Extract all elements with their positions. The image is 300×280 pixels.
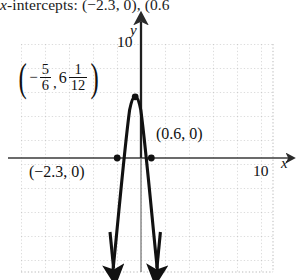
vertex-close-paren: ) bbox=[91, 62, 99, 93]
vertex-x-fraction: 5 6 bbox=[40, 62, 51, 93]
vertex-x-sign: − bbox=[29, 70, 37, 85]
parabola-figure: x-intercepts: (−2.3, 0), (0.6 bbox=[0, 0, 300, 280]
vertex-y-denominator: 12 bbox=[69, 77, 88, 93]
vertex-point bbox=[132, 93, 139, 100]
left-intercept-label: (−2.3, 0) bbox=[29, 163, 85, 181]
x-tick-label-10: 10 bbox=[253, 162, 269, 180]
vertex-x-denominator: 6 bbox=[40, 77, 51, 93]
x-axis-label: x bbox=[281, 155, 288, 172]
vertex-separator: , bbox=[53, 76, 57, 93]
left-intercept-point bbox=[114, 155, 121, 162]
right-intercept-point bbox=[148, 155, 155, 162]
vertex-x-numerator: 5 bbox=[40, 62, 51, 77]
vertex-annotation: ( − 5 6 , 6 1 12 ) bbox=[16, 62, 102, 93]
vertex-open-paren: ( bbox=[19, 62, 27, 93]
y-tick-label-10: 10 bbox=[117, 33, 133, 51]
vertex-y-whole: 6 bbox=[59, 70, 67, 86]
right-intercept-label: (0.6, 0) bbox=[156, 125, 203, 143]
vertex-y-numerator: 1 bbox=[72, 62, 83, 77]
vertex-y-fraction: 1 12 bbox=[69, 62, 88, 93]
coordinate-plane bbox=[0, 0, 300, 280]
